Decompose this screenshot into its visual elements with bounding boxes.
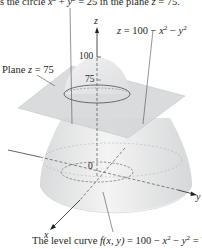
y-axis-label: y: [196, 192, 200, 202]
tick-100-label: 100: [79, 52, 93, 62]
z-axis-arrow: [95, 27, 99, 33]
origin-label: 0: [88, 162, 93, 172]
leader-plane: [37, 75, 55, 86]
surface-equation-label: z = 100 − x2 − y2: [117, 26, 187, 37]
y-axis-left: [8, 150, 40, 157]
paraboloid-diagram: [0, 0, 202, 249]
plane-label: Plane z = 75: [2, 65, 54, 76]
tick-75-label: 75: [85, 75, 95, 85]
bottom-caption: The level curve f(x, y) = 100 − x2 − y2 …: [32, 236, 202, 247]
top-caption: is the circle x2 + y2 = 25 in the plane …: [0, 0, 180, 8]
z-axis-label: z: [94, 16, 98, 26]
paraboloid-figure: is the circle x2 + y2 = 25 in the plane …: [0, 0, 202, 249]
